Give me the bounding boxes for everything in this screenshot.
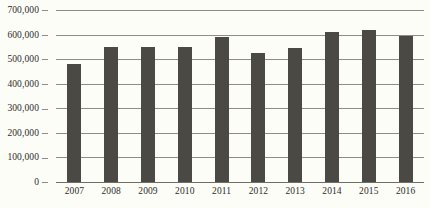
bar <box>67 64 81 182</box>
y-tick-text: 0 <box>34 177 39 187</box>
gridline <box>56 10 424 11</box>
x-axis-tick-label: 2010 <box>165 186 205 196</box>
y-axis-tick-label: 100,000 <box>0 152 48 162</box>
bar <box>288 48 302 182</box>
x-axis-tick-label: 2013 <box>275 186 315 196</box>
y-tick-text: 600,000 <box>7 30 39 40</box>
y-axis-tick-label: 200,000 <box>0 128 48 138</box>
bar <box>362 30 376 182</box>
bar <box>141 47 155 182</box>
x-axis-tick-label: 2007 <box>54 186 94 196</box>
y-tick-mark <box>42 84 48 85</box>
x-axis-tick-label: 2015 <box>349 186 389 196</box>
y-tick-text: 100,000 <box>7 152 39 162</box>
bar <box>399 36 413 182</box>
y-tick-text: 300,000 <box>7 103 39 113</box>
bar <box>325 32 339 182</box>
y-tick-mark <box>42 158 48 159</box>
y-tick-mark <box>42 182 48 183</box>
y-tick-mark <box>42 35 48 36</box>
y-axis-tick-label: 700,000 <box>0 5 48 15</box>
x-axis-tick-label: 2009 <box>128 186 168 196</box>
y-tick-mark <box>42 109 48 110</box>
y-axis-tick-label: 600,000 <box>0 30 48 40</box>
x-axis-tick-label: 2012 <box>238 186 278 196</box>
y-axis-tick-label: 500,000 <box>0 54 48 64</box>
bar <box>104 47 118 182</box>
y-tick-text: 500,000 <box>7 54 39 64</box>
y-tick-text: 200,000 <box>7 128 39 138</box>
bar <box>251 53 265 182</box>
y-axis-tick-label: 300,000 <box>0 103 48 113</box>
x-axis-tick-label: 2014 <box>312 186 352 196</box>
y-axis-tick-label: 0 <box>0 177 48 187</box>
y-tick-mark <box>42 59 48 60</box>
plot-area <box>56 10 424 182</box>
y-tick-mark <box>42 133 48 134</box>
gridline <box>56 182 424 183</box>
x-axis-tick-label: 2016 <box>386 186 426 196</box>
y-tick-text: 700,000 <box>7 5 39 15</box>
y-tick-text: 400,000 <box>7 79 39 89</box>
bar-chart: 0100,000200,000300,000400,000500,000600,… <box>0 0 430 208</box>
y-tick-mark <box>42 10 48 11</box>
x-axis-tick-label: 2011 <box>202 186 242 196</box>
bar <box>178 47 192 182</box>
y-axis-tick-label: 400,000 <box>0 79 48 89</box>
x-axis-tick-label: 2008 <box>91 186 131 196</box>
bar <box>215 37 229 182</box>
